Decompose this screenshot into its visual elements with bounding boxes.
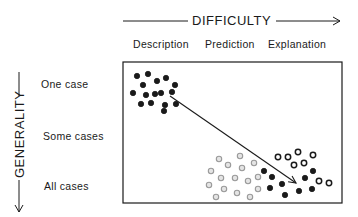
ring-dot (310, 152, 315, 157)
light-dot (232, 175, 237, 180)
filled-dot (162, 102, 167, 107)
row-label-some-cases: Some cases (43, 130, 104, 142)
column-label-explanation: Explanation (268, 38, 326, 50)
dark-dot (282, 192, 287, 197)
light-dot (216, 156, 221, 161)
filled-dot (130, 90, 135, 95)
dark-dot (267, 185, 272, 190)
column-label-prediction: Prediction (205, 38, 255, 50)
filled-dot (148, 100, 153, 105)
light-dot (255, 174, 260, 179)
ring-dot (275, 154, 280, 159)
filled-dot (138, 101, 143, 106)
difficulty-axis-title: DIFFICULTY (192, 13, 271, 28)
filled-dot (169, 89, 174, 94)
light-dot (245, 178, 250, 183)
dark-dot (310, 168, 315, 173)
filled-dot (154, 78, 159, 83)
filled-dot (145, 71, 150, 76)
light-dot (255, 186, 260, 191)
light-dot (247, 194, 252, 199)
light-dot (218, 175, 223, 180)
ring-dot (295, 149, 300, 154)
dark-dot (279, 181, 284, 186)
dark-dot (261, 168, 266, 173)
dark-dot (269, 174, 274, 179)
row-label-all-cases: All cases (44, 180, 89, 192)
light-dot (225, 162, 230, 167)
dark-dot (302, 175, 307, 180)
ring-dot (291, 162, 296, 167)
ring-dot (316, 178, 321, 183)
dark-dot (296, 188, 301, 193)
light-dot (221, 186, 226, 191)
ring-dot (326, 180, 331, 185)
ring-dot (285, 154, 290, 159)
light-dot (239, 165, 244, 170)
row-label-one-case: One case (41, 78, 88, 90)
filled-dot (140, 82, 145, 87)
arrowhead-icon (288, 176, 296, 183)
filled-dot (143, 92, 148, 97)
filled-dot (161, 108, 166, 113)
light-dot (251, 160, 256, 165)
dark-dot (309, 186, 314, 191)
filled-dot (158, 90, 163, 95)
filled-dot (134, 73, 139, 78)
trend-arrow (170, 96, 296, 183)
light-dot (213, 194, 218, 199)
filled-dot (152, 91, 157, 96)
generality-axis-title: GENERALITY (12, 91, 27, 178)
ring-dot (301, 160, 306, 165)
light-dot (208, 168, 213, 173)
light-dot (206, 182, 211, 187)
filled-dot (163, 75, 168, 80)
filled-dot (172, 82, 177, 87)
light-dot (234, 190, 239, 195)
column-label-description: Description (133, 38, 189, 50)
data-points (130, 71, 331, 199)
light-dot (237, 153, 242, 158)
